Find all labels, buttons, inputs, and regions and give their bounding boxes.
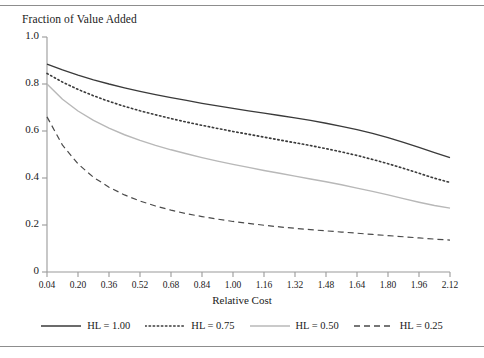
x-tick-label: 1.32 [287,280,304,290]
series-line-4 [47,117,450,240]
figure-container: Fraction of Value Added 00.20.40.60.81.0… [0,0,484,358]
x-tick-label: 1.00 [225,280,242,290]
x-tick-label: 0.52 [132,280,149,290]
y-tick-label: 0.6 [7,123,39,135]
y-tick-label: 1.0 [7,29,39,41]
x-tick-label: 1.64 [349,280,366,290]
legend-item-2: HL = 0.75 [145,320,234,331]
y-tick-label: 0.8 [7,76,39,88]
chart-legend: HL = 1.00HL = 0.75HL = 0.50HL = 0.25 [0,320,484,331]
x-tick-label: 1.96 [411,280,428,290]
legend-item-1: HL = 1.00 [41,320,130,331]
legend-swatch-dashed [354,321,394,331]
x-tick-label: 0.20 [70,280,87,290]
legend-label: HL = 0.25 [400,320,443,331]
legend-label: HL = 1.00 [87,320,130,331]
legend-swatch-solid [41,321,81,331]
x-tick-label: 0.36 [101,280,118,290]
legend-label: HL = 0.50 [296,320,339,331]
legend-swatch-solid [250,321,290,331]
y-tick-label: 0.4 [7,170,39,182]
series-line-3 [47,84,450,208]
legend-swatch-dotted [145,321,185,331]
x-tick-label: 1.16 [256,280,273,290]
series-line-1 [47,64,450,158]
x-tick-label: 1.80 [380,280,397,290]
x-tick-label: 0.84 [194,280,211,290]
x-tick-label: 2.12 [442,280,459,290]
legend-label: HL = 0.75 [191,320,234,331]
y-tick-label: 0.2 [7,217,39,229]
y-tick-label: 0 [7,264,39,276]
x-tick-label: 1.48 [318,280,335,290]
x-tick-label: 0.68 [163,280,180,290]
x-axis-label: Relative Cost [0,294,484,306]
legend-item-3: HL = 0.50 [250,320,339,331]
legend-item-4: HL = 0.25 [354,320,443,331]
x-tick-label: 0.04 [39,280,56,290]
